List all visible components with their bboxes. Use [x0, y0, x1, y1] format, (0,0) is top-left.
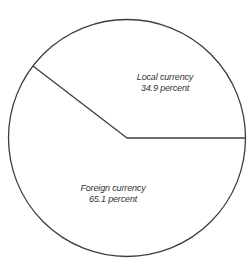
slice-label: Local currency — [137, 72, 194, 82]
slice-label-group: Foreign currency 65.1 percent — [80, 183, 146, 204]
slice-boundary-line-1 — [33, 66, 127, 138]
pie-chart: Local currency 34.9 percent Foreign curr… — [0, 0, 251, 269]
slice-value-label: 34.9 percent — [141, 83, 190, 93]
slice-label: Foreign currency — [80, 183, 146, 193]
pie-chart-figure: Local currency 34.9 percent Foreign curr… — [0, 0, 251, 269]
slice-value-label: 65.1 percent — [89, 194, 138, 204]
slice-label-group: Local currency 34.9 percent — [137, 72, 194, 93]
